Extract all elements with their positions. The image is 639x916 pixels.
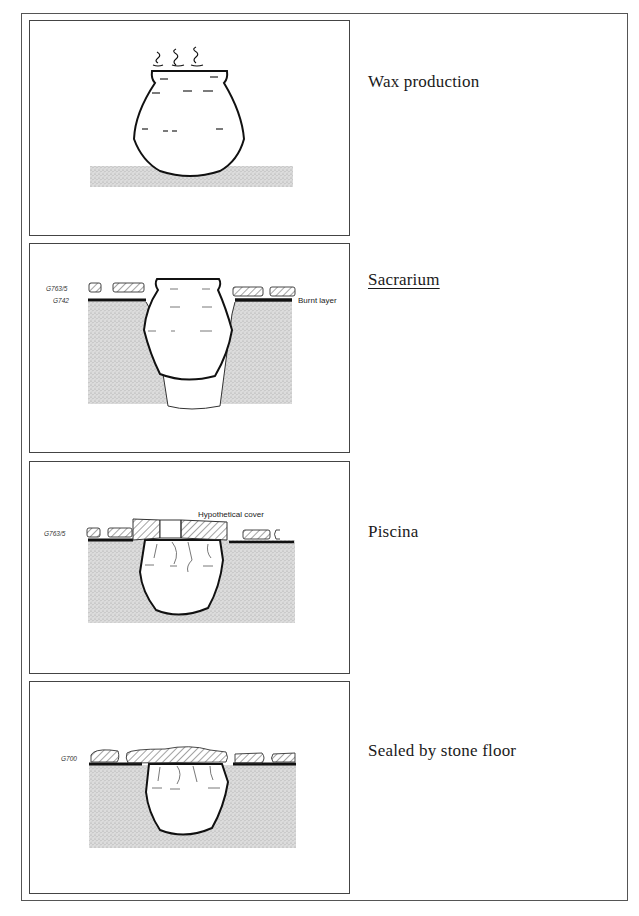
- panel-label-sacrarium: Sacrarium: [368, 270, 440, 290]
- panel-sealed: G700: [29, 681, 350, 894]
- pot-icon: [144, 279, 232, 380]
- smoke-icon: [153, 47, 203, 66]
- panel-label-piscina: Piscina: [368, 522, 419, 542]
- pot-icon: [134, 71, 244, 176]
- layer-code-g700: G700: [61, 755, 77, 762]
- pot-icon: [140, 540, 223, 615]
- callout-burnt-layer: Burnt layer: [298, 296, 337, 305]
- panel-wax-production: [29, 20, 350, 236]
- wax-pot-illustration: [30, 21, 351, 237]
- panel-label-wax-production: Wax production: [368, 72, 479, 92]
- panel-label-sealed: Sealed by stone floor: [368, 741, 516, 761]
- layer-code-g763: G763/5: [46, 285, 68, 292]
- panel-sacrarium: G763/5 G742 Burnt layer: [29, 243, 350, 453]
- sacrarium-illustration: G763/5 G742 Burnt layer: [30, 244, 351, 454]
- layer-code-g763: G763/5: [44, 530, 66, 537]
- piscina-illustration: G763/5 Hypothetical cover: [30, 462, 351, 675]
- sealed-illustration: G700: [30, 682, 351, 895]
- layer-code-g742: G742: [53, 297, 69, 304]
- callout-hypothetical-cover: Hypothetical cover: [198, 510, 264, 519]
- panel-piscina: G763/5 Hypothetical cover: [29, 461, 350, 674]
